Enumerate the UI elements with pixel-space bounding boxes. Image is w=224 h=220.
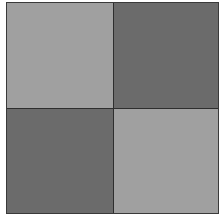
cell-top-right xyxy=(114,3,218,109)
cell-top-left xyxy=(7,3,114,109)
cell-bottom-right xyxy=(114,109,218,213)
checkerboard xyxy=(6,2,219,214)
cell-bottom-left xyxy=(7,109,114,213)
